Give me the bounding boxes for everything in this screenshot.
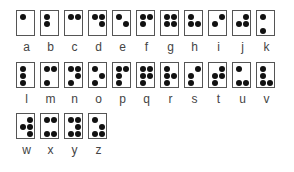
letter-label: f [136, 41, 157, 53]
letter-label: t [208, 93, 229, 105]
braille-row-1: abcdefghijk [16, 10, 280, 53]
braille-dot-3 [20, 80, 26, 86]
braille-dot-4 [171, 14, 177, 20]
braille-letter-f: f [136, 10, 160, 53]
braille-letter-c: c [64, 10, 88, 53]
braille-letter-d: d [88, 10, 112, 53]
braille-dot-4 [195, 66, 201, 72]
braille-dot-3 [260, 80, 266, 86]
braille-cell [136, 62, 155, 88]
braille-cell [16, 10, 35, 36]
braille-dot-3 [212, 80, 218, 86]
braille-dot-3 [44, 131, 50, 137]
braille-dot-1 [140, 66, 146, 72]
braille-letter-h: h [184, 10, 208, 53]
braille-dot-1 [260, 66, 266, 72]
letter-label: j [232, 41, 253, 53]
braille-cell [208, 62, 227, 88]
letter-label: b [40, 41, 61, 53]
braille-dot-5 [171, 21, 177, 27]
letter-label: h [184, 41, 205, 53]
braille-dot-1 [140, 14, 146, 20]
braille-letter-q: q [136, 62, 160, 105]
braille-cell [256, 62, 275, 88]
braille-dot-1 [68, 66, 74, 72]
braille-dot-2 [20, 124, 26, 130]
braille-cell [88, 113, 107, 139]
braille-dot-5 [75, 73, 81, 79]
braille-cell [184, 62, 203, 88]
braille-dot-4 [147, 14, 153, 20]
braille-dot-5 [195, 21, 201, 27]
braille-dot-4 [51, 117, 57, 123]
braille-dot-1 [44, 14, 50, 20]
braille-cell [136, 10, 155, 36]
braille-dot-1 [116, 66, 122, 72]
braille-letter-o: o [88, 62, 112, 105]
braille-dot-1 [188, 14, 194, 20]
braille-cell [208, 10, 227, 36]
braille-dot-3 [140, 80, 146, 86]
braille-dot-1 [260, 14, 266, 20]
letter-label: g [160, 41, 181, 53]
braille-dot-2 [236, 21, 242, 27]
braille-dot-5 [99, 124, 105, 130]
braille-dot-5 [147, 73, 153, 79]
braille-dot-4 [147, 66, 153, 72]
braille-cell [64, 10, 83, 36]
braille-letter-m: m [40, 62, 64, 105]
letter-label: e [112, 41, 133, 53]
letter-label: s [184, 93, 205, 105]
braille-dot-3 [92, 80, 98, 86]
braille-cell [40, 10, 59, 36]
braille-dot-2 [260, 73, 266, 79]
braille-cell [232, 62, 251, 88]
braille-dot-5 [99, 73, 105, 79]
braille-letter-u: u [232, 62, 256, 105]
braille-dot-6 [243, 80, 249, 86]
braille-cell [232, 10, 251, 36]
braille-cell [184, 10, 203, 36]
braille-letter-k: k [256, 10, 280, 53]
letter-label: a [16, 41, 37, 53]
braille-dot-1 [236, 66, 242, 72]
braille-dot-1 [92, 14, 98, 20]
braille-dot-1 [68, 117, 74, 123]
letter-label: y [64, 144, 85, 156]
braille-dot-6 [27, 131, 33, 137]
braille-dot-4 [75, 117, 81, 123]
braille-cell [64, 62, 83, 88]
braille-dot-4 [243, 14, 249, 20]
braille-dot-2 [164, 21, 170, 27]
braille-dot-2 [44, 21, 50, 27]
braille-dot-2 [116, 73, 122, 79]
braille-dot-3 [236, 80, 242, 86]
braille-dot-4 [99, 14, 105, 20]
braille-letter-v: v [256, 62, 280, 105]
letter-label: z [88, 144, 109, 156]
braille-dot-1 [164, 66, 170, 72]
braille-letter-t: t [208, 62, 232, 105]
braille-letter-r: r [160, 62, 184, 105]
braille-dot-1 [20, 14, 26, 20]
letter-label: m [40, 93, 61, 105]
braille-cell [40, 62, 59, 88]
braille-dot-2 [188, 73, 194, 79]
braille-letter-y: y [64, 113, 88, 156]
braille-dot-2 [212, 73, 218, 79]
braille-dot-2 [140, 21, 146, 27]
letter-label: o [88, 93, 109, 105]
braille-cell [16, 62, 35, 88]
braille-letter-l: l [16, 62, 40, 105]
braille-letter-w: w [16, 113, 40, 156]
braille-dot-1 [92, 117, 98, 123]
braille-dot-6 [267, 80, 273, 86]
braille-dot-1 [116, 14, 122, 20]
letter-label: d [88, 41, 109, 53]
braille-dot-1 [92, 66, 98, 72]
braille-dot-5 [171, 73, 177, 79]
braille-dot-3 [92, 131, 98, 137]
braille-dot-1 [164, 14, 170, 20]
letter-label: w [16, 144, 37, 156]
letter-label: p [112, 93, 133, 105]
